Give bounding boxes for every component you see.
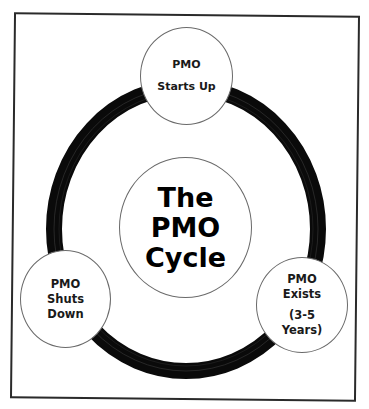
center-title-line-2: PMO bbox=[151, 213, 221, 243]
node-shuts-down-line-3: Down bbox=[47, 307, 83, 322]
node-exists-line-4: Years) bbox=[282, 323, 323, 338]
node-shuts-down-line-1: PMO bbox=[51, 277, 81, 292]
center-title-line-3: Cycle bbox=[145, 243, 226, 273]
node-starts-up-line-1: PMO bbox=[172, 54, 200, 76]
node-starts-up-line-2: Starts Up bbox=[157, 76, 215, 98]
node-exists-line-2: Exists bbox=[283, 287, 321, 302]
node-shuts-down-line-2: Shuts bbox=[47, 292, 84, 307]
node-shuts-down: PMO Shuts Down bbox=[20, 250, 111, 348]
node-exists: PMO Exists (3-5 Years) bbox=[256, 257, 348, 353]
center-title-node: The PMO Cycle bbox=[119, 157, 252, 298]
node-exists-line-1: PMO bbox=[287, 272, 317, 287]
node-starts-up: PMO Starts Up bbox=[140, 27, 233, 125]
center-title-line-1: The bbox=[158, 183, 214, 213]
node-exists-line-3: (3-5 bbox=[289, 308, 315, 323]
